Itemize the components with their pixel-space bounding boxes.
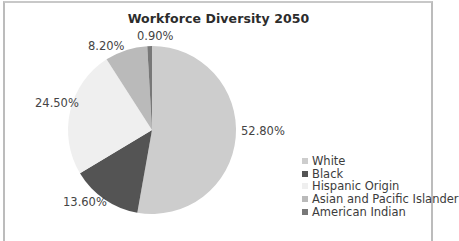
slice-label-asian: 8.20% — [88, 39, 125, 53]
legend-item-hispanic: Hispanic Origin — [302, 180, 459, 193]
legend-swatch-icon — [302, 171, 308, 177]
legend-swatch-icon — [302, 209, 308, 215]
legend-label: American Indian — [312, 205, 406, 219]
legend-item-american-indian: American Indian — [302, 205, 459, 218]
slice-label-white: 52.80% — [241, 124, 285, 138]
legend-swatch-icon — [302, 158, 308, 164]
legend-item-asian: Asian and Pacific Islander — [302, 193, 459, 206]
legend-item-white: White — [302, 155, 459, 168]
legend-item-black: Black — [302, 168, 459, 181]
slice-label-hispanic: 24.50% — [35, 96, 79, 110]
chart-legend: White Black Hispanic Origin Asian and Pa… — [302, 155, 459, 218]
legend-swatch-icon — [302, 196, 308, 202]
slice-label-american-indian: 0.90% — [137, 29, 174, 43]
slice-label-black: 13.60% — [63, 195, 107, 209]
legend-swatch-icon — [302, 183, 308, 189]
pie-slice-white — [137, 46, 236, 214]
